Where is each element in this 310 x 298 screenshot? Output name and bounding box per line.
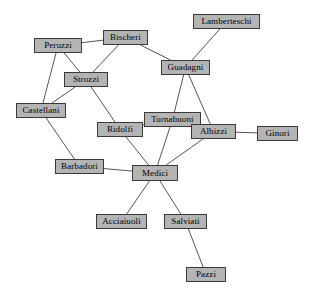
graph-node-label: Peruzzi [44, 41, 72, 50]
graph-node-bischeri[interactable]: Bischeri [103, 30, 148, 45]
graph-node-peruzzi[interactable]: Peruzzi [34, 38, 82, 53]
graph-node-label: Strozzi [73, 75, 99, 84]
graph-node-ginori[interactable]: Ginori [257, 126, 298, 141]
graph-node-label: Barbadori [61, 162, 98, 171]
graph-node-label: Castellani [23, 106, 60, 115]
graph-node-lamberteschi[interactable]: Lamberteschi [193, 14, 260, 29]
graph-node-salviati[interactable]: Salviati [164, 214, 207, 229]
graph-node-medici[interactable]: Medici [132, 165, 178, 181]
graph-node-label: Pazzi [196, 270, 216, 279]
graph-node-label: Guadagni [168, 63, 204, 72]
graph-node-castellani[interactable]: Castellani [16, 103, 66, 118]
graph-node-strozzi[interactable]: Strozzi [64, 72, 108, 87]
graph-node-ridolfi[interactable]: Ridolfi [97, 122, 143, 137]
graph-node-label: Acciaiuoli [102, 217, 141, 226]
graph-node-label: Lamberteschi [201, 17, 251, 26]
graph-node-label: Albizzi [200, 127, 227, 136]
graph-node-label: Tornabuoni [151, 115, 193, 124]
graph-node-label: Medici [142, 169, 168, 178]
graph-node-guadagni[interactable]: Guadagni [161, 60, 210, 75]
graph-node-label: Bischeri [110, 33, 141, 42]
graph-node-label: Salviati [171, 217, 199, 226]
graph-node-barbadori[interactable]: Barbadori [55, 159, 104, 174]
graph-node-acciaiuoli[interactable]: Acciaiuoli [96, 214, 147, 229]
graph-node-label: Ridolfi [107, 125, 133, 134]
graph-node-label: Ginori [265, 129, 289, 138]
node-layer: LamberteschiBischeriPeruzziGuadagniStroz… [0, 0, 310, 298]
graph-node-albizzi[interactable]: Albizzi [191, 124, 236, 139]
graph-node-pazzi[interactable]: Pazzi [186, 267, 226, 282]
network-diagram: LamberteschiBischeriPeruzziGuadagniStroz… [0, 0, 310, 298]
